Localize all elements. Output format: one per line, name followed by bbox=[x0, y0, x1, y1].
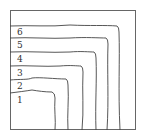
diagram-frame bbox=[11, 11, 136, 130]
level-label-5: 5 bbox=[17, 41, 23, 50]
level-label-6: 6 bbox=[17, 28, 23, 37]
contour-line-6 bbox=[10, 25, 120, 130]
level-label-4: 4 bbox=[17, 55, 23, 64]
level-label-2: 2 bbox=[17, 82, 23, 91]
level-label-3: 3 bbox=[17, 69, 23, 78]
level-label-1: 1 bbox=[17, 96, 23, 105]
